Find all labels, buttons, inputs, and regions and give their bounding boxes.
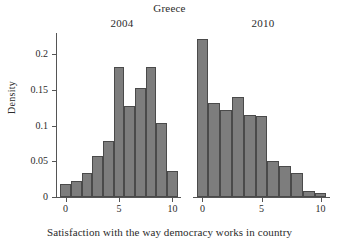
y-tick-label-1: 0.05 <box>2 156 48 166</box>
bar <box>71 181 82 197</box>
y-tick-label-4: 0.2 <box>2 49 48 59</box>
bar <box>232 97 244 197</box>
bar <box>114 67 125 197</box>
x-tick-label-1-0: 0 <box>187 203 217 214</box>
x-axis-label: Satisfaction with the way democracy work… <box>0 226 339 238</box>
panel-2004 <box>57 33 181 197</box>
panel-title-2004: 2004 <box>63 17 181 29</box>
bar <box>220 110 232 197</box>
bar <box>197 39 209 197</box>
x-tick-label-0-2: 10 <box>157 203 187 214</box>
bar <box>156 123 167 197</box>
x-tick-1-1 <box>262 198 263 202</box>
x-tick-label-1-2: 10 <box>306 203 336 214</box>
y-tick-label-0: 0 <box>2 192 48 202</box>
x-tick-0-1 <box>119 198 120 202</box>
x-tick-0-2 <box>172 198 173 202</box>
bar <box>256 116 268 197</box>
chart-title: Greece <box>0 2 339 14</box>
panel-2010 <box>193 33 330 197</box>
x-tick-0-0 <box>66 198 67 202</box>
bar <box>92 156 103 197</box>
x-tick-label-0-1: 5 <box>104 203 134 214</box>
bar <box>135 88 146 197</box>
bar <box>291 173 303 197</box>
x-tick-1-0 <box>202 198 203 202</box>
x-tick-label-0-0: 0 <box>51 203 81 214</box>
bar <box>267 161 279 197</box>
bar <box>60 184 71 197</box>
y-axis-label: Density <box>6 68 17 128</box>
bar <box>124 106 135 197</box>
bar <box>279 166 291 197</box>
y-tick-label-2: 0.1 <box>2 121 48 131</box>
bar <box>103 141 114 197</box>
panel-title-2010: 2010 <box>196 17 330 29</box>
bar <box>244 115 256 197</box>
bar <box>167 171 178 197</box>
histogram-figure: Greece 2004 2010 Density 00.050.10.150.2… <box>0 0 339 247</box>
plot-area-2004 <box>57 33 181 197</box>
bar <box>82 173 93 197</box>
plot-area-2010 <box>193 33 330 197</box>
x-tick-1-2 <box>321 198 322 202</box>
bar <box>146 67 157 197</box>
bar <box>208 103 220 197</box>
x-tick-label-1-1: 5 <box>247 203 277 214</box>
y-tick-label-3: 0.15 <box>2 85 48 95</box>
